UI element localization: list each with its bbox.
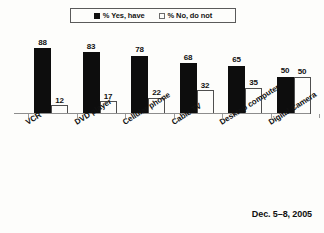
bar-chart: % Yes, have % No, do not 88 12 83 17 <box>0 0 324 233</box>
bar-value-label: 88 <box>38 38 47 47</box>
x-axis-tick <box>125 114 126 118</box>
bar-value-label: 68 <box>184 53 193 62</box>
x-axis-tick <box>174 114 175 118</box>
legend-label-yes-have: % Yes, have <box>103 11 145 20</box>
bar-value-label: 83 <box>87 42 96 51</box>
x-axis-baseline <box>14 113 310 114</box>
bar-value-label: 78 <box>135 45 144 54</box>
legend-label-no-do-not: % No, do not <box>168 11 213 20</box>
bar-value-label: 32 <box>201 81 210 90</box>
bar-value-label: 12 <box>55 96 64 105</box>
bar-yes: 88 <box>34 48 51 114</box>
x-axis-tick <box>28 114 29 118</box>
chart-legend: % Yes, have % No, do not <box>70 8 236 23</box>
bar-value-label: 50 <box>298 67 307 76</box>
survey-date-note: Dec. 5–8, 2005 <box>252 209 312 219</box>
legend-entry-yes-have: % Yes, have <box>94 11 145 20</box>
bar-value-label: 35 <box>249 78 258 87</box>
x-axis-tick <box>271 114 272 118</box>
bar-value-label: 50 <box>281 66 290 75</box>
x-axis-tick <box>222 114 223 118</box>
legend-entry-no-do-not: % No, do not <box>159 11 213 20</box>
bar-group: 88 12 <box>34 48 68 114</box>
x-axis-tick <box>77 114 78 118</box>
x-axis-tick <box>319 114 320 118</box>
hollow-square-icon <box>159 13 165 19</box>
bar-value-label: 65 <box>232 55 241 64</box>
filled-square-icon <box>94 13 100 19</box>
